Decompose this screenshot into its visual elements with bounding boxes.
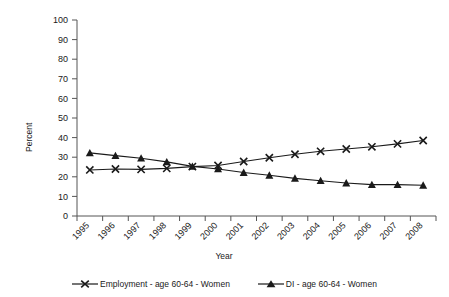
- triangle-marker-icon: [258, 278, 284, 290]
- y-tick-label: 50: [58, 113, 68, 123]
- y-tick-label: 80: [58, 54, 68, 64]
- y-axis-ticks: [72, 20, 77, 216]
- y-axis-title-label: Percent: [24, 123, 34, 152]
- legend-label-di: DI - age 60-64 - Women: [286, 280, 377, 289]
- y-tick-label: 90: [58, 35, 68, 45]
- y-tick-label: 0: [63, 211, 68, 221]
- chart-series-group: [86, 137, 427, 189]
- legend-item-employment[interactable]: Employment - age 60-64 - Women: [72, 278, 230, 290]
- x-tick-label: 2006: [352, 220, 373, 241]
- y-tick-label: 40: [58, 133, 68, 143]
- x-tick-label: 1996: [96, 220, 117, 241]
- y-tick-label: 20: [58, 172, 68, 182]
- x-tick-label: 1999: [173, 220, 194, 241]
- x-axis-ticks: [77, 216, 436, 221]
- legend-label-employment: Employment - age 60-64 - Women: [100, 280, 230, 289]
- legend-item-di[interactable]: DI - age 60-64 - Women: [258, 278, 377, 290]
- x-tick-label: 2004: [301, 220, 322, 241]
- y-tick-label: 70: [58, 74, 68, 84]
- series-1: [86, 137, 427, 174]
- y-axis-tick-labels: 0102030405060708090100: [53, 15, 68, 221]
- x-tick-label: 1998: [147, 220, 168, 241]
- x-tick-label: 2000: [198, 220, 219, 241]
- y-tick-label: 100: [53, 15, 68, 25]
- x-marker-icon: [72, 278, 98, 290]
- x-tick-label: 2003: [275, 220, 296, 241]
- chart-container: 0102030405060708090100 19951996199719981…: [0, 0, 449, 297]
- y-tick-label: 30: [58, 152, 68, 162]
- x-tick-label: 1997: [121, 220, 142, 241]
- chart-legend: Employment - age 60-64 - Women DI - age …: [0, 274, 449, 294]
- x-axis-title: Year: [215, 251, 232, 261]
- data-point-marker: [86, 149, 94, 156]
- x-tick-label: 1995: [70, 220, 91, 241]
- x-tick-label: 2007: [378, 220, 399, 241]
- x-tick-label: 2002: [250, 220, 271, 241]
- x-tick-label: 2005: [326, 220, 347, 241]
- y-axis-title: Percent: [13, 96, 27, 156]
- y-tick-label: 60: [58, 94, 68, 104]
- x-tick-label: 2008: [403, 220, 424, 241]
- x-tick-label: 2001: [224, 220, 245, 241]
- y-tick-label: 10: [58, 192, 68, 202]
- x-axis-tick-labels: 1995199619971998199920002001200220032004…: [70, 220, 425, 241]
